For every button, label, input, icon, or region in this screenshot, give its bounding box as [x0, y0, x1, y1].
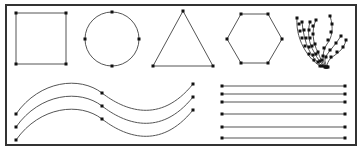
control-point [111, 65, 114, 68]
control-point [281, 38, 284, 41]
control-point [65, 12, 68, 15]
control-point [226, 38, 229, 41]
control-point [111, 11, 114, 14]
control-point [344, 93, 347, 96]
control-point [301, 21, 304, 24]
control-point [308, 29, 311, 32]
horizontal-lines [221, 85, 347, 140]
control-point [267, 62, 270, 65]
control-point [296, 17, 299, 20]
square-outline [16, 13, 66, 64]
control-point [221, 137, 224, 140]
control-point [192, 83, 195, 86]
control-point [298, 23, 301, 26]
figure-svg [0, 0, 360, 151]
stroke-primitives-figure [0, 0, 360, 151]
control-point [322, 55, 325, 58]
control-point [336, 51, 339, 54]
control-point [330, 31, 333, 34]
wave-curve [16, 83, 193, 114]
control-point [335, 42, 338, 45]
control-point [344, 85, 347, 88]
control-point [192, 109, 195, 112]
control-point [312, 54, 315, 57]
control-point [342, 46, 345, 49]
control-point [309, 21, 312, 24]
control-point [101, 105, 104, 108]
control-point [65, 63, 68, 66]
wave-curves [15, 83, 195, 142]
control-point [303, 29, 306, 32]
control-point [15, 63, 18, 66]
square-shape [15, 12, 68, 66]
control-point [304, 45, 307, 48]
control-point [340, 35, 343, 38]
control-point [312, 33, 315, 36]
control-point [221, 101, 224, 104]
hexagon-outline [227, 14, 282, 63]
control-point [221, 126, 224, 129]
control-point [305, 37, 308, 40]
control-point [182, 10, 185, 13]
control-point [301, 37, 304, 40]
control-point [101, 118, 104, 121]
control-point [325, 66, 328, 69]
circle-shape [84, 11, 141, 68]
control-point [344, 113, 347, 116]
control-point [221, 85, 224, 88]
control-point [15, 139, 18, 142]
control-point [212, 65, 215, 68]
control-point [314, 43, 317, 46]
control-point [323, 47, 326, 50]
control-point [330, 56, 333, 59]
control-point [344, 101, 347, 104]
control-point [317, 51, 320, 54]
control-point [331, 23, 334, 26]
control-point [344, 137, 347, 140]
control-point [312, 25, 315, 28]
control-point [345, 39, 348, 42]
control-point [240, 62, 243, 65]
control-point [311, 45, 314, 48]
hexagon-shape [226, 13, 284, 65]
control-point [15, 12, 18, 15]
control-point [152, 65, 155, 68]
fan-strokes-shape [296, 15, 348, 69]
control-point [299, 30, 302, 33]
figure-frame [6, 5, 356, 145]
control-point [138, 38, 141, 41]
triangle-shape [152, 10, 215, 68]
control-point [327, 39, 330, 42]
control-point [15, 126, 18, 129]
control-point [315, 19, 318, 22]
control-point [329, 49, 332, 52]
control-point [221, 93, 224, 96]
triangle-outline [153, 11, 213, 66]
control-point [344, 126, 347, 129]
control-point [267, 13, 270, 16]
control-point [192, 96, 195, 99]
control-point [308, 46, 311, 49]
control-point [15, 113, 18, 116]
control-point [101, 92, 104, 95]
control-point [329, 15, 332, 18]
wave-curve [16, 109, 193, 140]
control-point [240, 13, 243, 16]
control-point [309, 37, 312, 40]
circle-outline [85, 12, 139, 66]
control-point [84, 38, 87, 41]
wave-curve [16, 96, 193, 127]
control-point [221, 113, 224, 116]
control-point [325, 56, 328, 59]
